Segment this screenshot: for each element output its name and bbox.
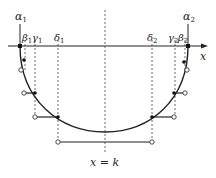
x-axis-label: x bbox=[200, 50, 207, 63]
delta2-label: δ2 bbox=[147, 32, 158, 45]
delta1-label: δ1 bbox=[54, 32, 65, 45]
beta2-label: β2 bbox=[177, 32, 188, 45]
x-axis-arrow-icon bbox=[201, 44, 208, 49]
open-points bbox=[19, 68, 189, 144]
gamma1-label: γ1 bbox=[32, 32, 42, 45]
diagram-canvas: α1 β1 γ1 δ1 α2 δ2 γ2 β2 x x = k bbox=[0, 0, 216, 178]
alpha1-label: α1 bbox=[15, 10, 27, 24]
step-segments bbox=[24, 93, 185, 142]
center-label: x = k bbox=[90, 156, 119, 169]
alpha2-label: α2 bbox=[183, 10, 195, 24]
beta1-label: β1 bbox=[21, 32, 32, 45]
curve bbox=[20, 46, 188, 132]
dashed-guides bbox=[25, 10, 185, 152]
gamma2-label: γ2 bbox=[168, 32, 178, 45]
